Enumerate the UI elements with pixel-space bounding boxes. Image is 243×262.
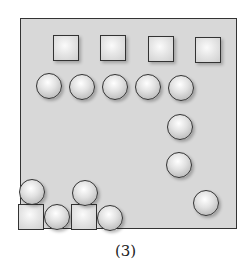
circle-shape bbox=[168, 75, 194, 101]
square-shape bbox=[18, 204, 44, 230]
square-shape bbox=[71, 204, 97, 230]
circle-shape bbox=[69, 74, 95, 100]
circle-shape bbox=[72, 180, 98, 206]
square-shape bbox=[53, 35, 79, 61]
square-shape bbox=[148, 36, 174, 62]
figure-label: (3) bbox=[0, 242, 243, 260]
square-shape bbox=[195, 37, 221, 63]
circle-shape bbox=[19, 179, 45, 205]
circle-shape bbox=[36, 73, 62, 99]
square-shape bbox=[100, 35, 126, 61]
circle-shape bbox=[97, 205, 123, 231]
circle-shape bbox=[102, 74, 128, 100]
circle-shape bbox=[193, 190, 219, 216]
circle-shape bbox=[135, 74, 161, 100]
circle-shape bbox=[44, 204, 70, 230]
circle-shape bbox=[167, 114, 193, 140]
circle-shape bbox=[166, 152, 192, 178]
